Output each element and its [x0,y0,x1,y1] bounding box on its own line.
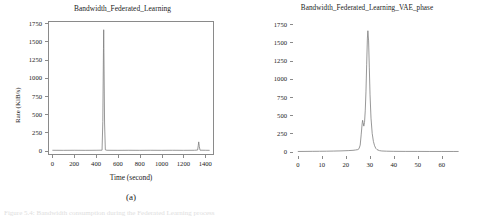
data-series-b [298,31,459,152]
series-line-b [0,0,489,217]
figure-container: Bandwidth_Federated_Learning Rate (KiB/s… [0,0,489,217]
